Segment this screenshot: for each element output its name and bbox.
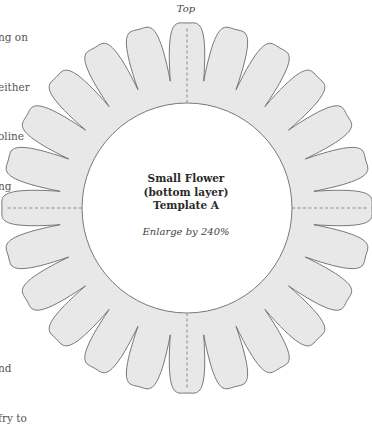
title-line: Small Flower xyxy=(0,172,372,186)
title-line: Template A xyxy=(0,199,372,213)
title-line: (bottom layer) xyxy=(0,186,372,200)
template-title: Small Flower (bottom layer) Template A xyxy=(0,172,372,213)
top-label: Top xyxy=(177,3,195,14)
side-text-line: fry to xyxy=(0,410,27,427)
enlarge-instruction: Enlarge by 240% xyxy=(0,226,372,237)
